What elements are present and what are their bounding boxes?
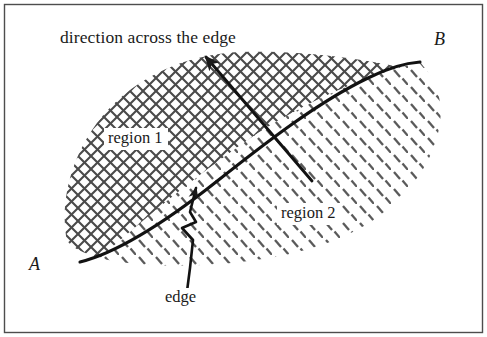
point-a-label: A (29, 255, 40, 273)
edge-diagram-svg (0, 0, 487, 337)
figure-container: direction across the edge region 1 regio… (0, 0, 487, 337)
edge-label: edge (162, 288, 199, 308)
region-2-label: region 2 (277, 203, 341, 225)
region-1-label: region 1 (104, 128, 168, 150)
diagram-title-label: direction across the edge (60, 29, 236, 47)
point-b-label: B (434, 30, 445, 48)
